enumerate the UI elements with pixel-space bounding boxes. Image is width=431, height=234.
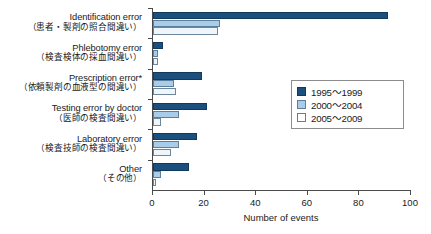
bar: [153, 118, 161, 125]
x-axis-tick-label: 80: [353, 197, 364, 208]
category-label-jp: （依頼製剤の血液型の間違い）: [0, 83, 142, 92]
category-label-jp: （検査検体の採血間違い）: [0, 53, 142, 62]
bar: [153, 163, 189, 170]
x-axis-tick-label: 0: [149, 197, 154, 208]
bar: [153, 50, 158, 57]
x-axis-tick: [204, 191, 205, 195]
category-label: Testing error by doctor（医師の検査間違い）: [0, 103, 142, 123]
y-axis-tick: [148, 99, 152, 100]
legend-swatch: [297, 87, 306, 96]
x-axis-tick-label: 40: [250, 197, 261, 208]
legend-label: 2000～2004: [311, 98, 362, 112]
x-axis-title: Number of events: [152, 212, 410, 223]
category-label: Phlebotomy error（検査検体の採血間違い）: [0, 43, 142, 63]
x-axis-tick: [410, 191, 411, 195]
bar: [153, 111, 179, 118]
category-label-jp: （患者・製剤の照合間違い）: [0, 23, 142, 32]
x-axis-tick-label: 60: [302, 197, 313, 208]
bar: [153, 171, 161, 178]
chart-legend: 1995～19992000～20042005～2009: [291, 80, 404, 129]
x-axis-tick-label: 100: [402, 197, 418, 208]
x-axis-tick: [152, 191, 153, 195]
category-label-en: Testing error by doctor: [0, 103, 142, 113]
bar: [153, 133, 197, 140]
bar: [153, 27, 218, 34]
category-label: Identification error（患者・製剤の照合間違い）: [0, 12, 142, 32]
category-label-jp: （検査技師の検査間違い）: [0, 144, 142, 153]
x-axis-tick: [358, 191, 359, 195]
category-label: Other（その他）: [0, 164, 142, 184]
legend-item: 1995～1999: [297, 85, 397, 98]
legend-swatch: [297, 113, 306, 122]
category-label-jp: （医師の検査間違い）: [0, 114, 142, 123]
y-axis-tick: [148, 129, 152, 130]
legend-swatch: [297, 100, 306, 109]
category-label-en: Identification error: [0, 12, 142, 22]
bar: [153, 72, 202, 79]
x-axis-tick-label: 20: [198, 197, 209, 208]
legend-label: 2005～2009: [311, 111, 362, 125]
bar: [153, 80, 174, 87]
bar: [153, 141, 179, 148]
category-label: Laboratory error（検査技師の検査間違い）: [0, 134, 142, 154]
y-axis-tick: [148, 160, 152, 161]
bar-chart: Identification error（患者・製剤の照合間違い）Phlebot…: [0, 0, 431, 234]
bar: [153, 20, 220, 27]
bar: [153, 42, 163, 49]
legend-label: 1995～1999: [311, 85, 362, 99]
bar: [153, 149, 171, 156]
y-axis-tick: [148, 38, 152, 39]
bar: [153, 88, 176, 95]
category-label-jp: （その他）: [0, 174, 142, 183]
y-axis-tick: [148, 8, 152, 9]
bar: [153, 103, 207, 110]
category-label: Prescription error*（依頼製剤の血液型の間違い）: [0, 73, 142, 93]
bar: [153, 58, 158, 65]
y-axis-tick: [148, 69, 152, 70]
x-axis-tick: [307, 191, 308, 195]
x-axis-tick: [255, 191, 256, 195]
x-axis-line: [152, 190, 411, 191]
bar: [153, 179, 156, 186]
legend-item: 2000～2004: [297, 98, 397, 111]
legend-item: 2005～2009: [297, 111, 397, 124]
category-labels: Identification error（患者・製剤の照合間違い）Phlebot…: [0, 8, 146, 190]
bar: [153, 12, 388, 19]
